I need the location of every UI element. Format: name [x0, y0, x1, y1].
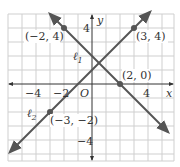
tick-y-4: 4 [83, 22, 90, 35]
tick-x-4: 4 [143, 87, 150, 100]
point-label-neg3-neg2: (−3, −2) [50, 114, 98, 127]
tick-x-neg4: −4 [25, 87, 41, 100]
tick-x-neg2: −2 [53, 87, 69, 100]
x-axis-label: x [166, 87, 173, 100]
y-axis-label: y [96, 14, 104, 27]
point-label-3-4: (3, 4) [136, 30, 166, 43]
point-label-2-0: (2, 0) [122, 69, 152, 82]
origin-label: O [80, 87, 89, 100]
tick-y-neg4: −4 [77, 135, 93, 148]
point-label-neg2-4: (−2, 4) [25, 30, 64, 43]
line-l2-label: ℓ2 [27, 107, 37, 122]
coordinate-plane: (−2, 4) (3, 4) (2, 0) (−3, −2) ℓ1 ℓ2 y x… [0, 0, 180, 167]
